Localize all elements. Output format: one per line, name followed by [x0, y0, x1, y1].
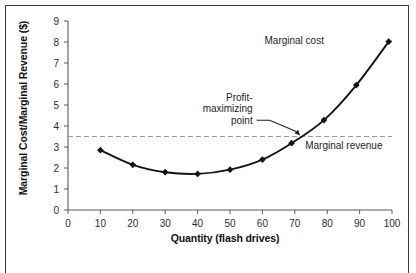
profit-point-label-line3: point: [231, 115, 253, 126]
marginal-revenue-label: Marginal revenue: [305, 140, 383, 151]
x-tick-label: 100: [384, 218, 401, 229]
x-tick-label: 80: [322, 218, 334, 229]
x-tick-label: 50: [224, 218, 236, 229]
x-tick-label: 30: [160, 218, 172, 229]
y-tick-label: 2: [53, 163, 59, 174]
profit-point-arrow: [257, 120, 297, 131]
x-tick-label: 20: [127, 218, 139, 229]
data-point-marker: [97, 147, 104, 154]
y-tick-label: 3: [53, 142, 59, 153]
x-axis-ticks: 0102030405060708090100: [65, 210, 401, 229]
y-tick-label: 6: [53, 79, 59, 90]
profit-point-label-line1: Profit-: [226, 92, 253, 103]
profit-point-label-line2: maximizing: [203, 103, 253, 114]
x-tick-label: 60: [257, 218, 269, 229]
x-tick-label: 0: [65, 218, 71, 229]
data-point-marker: [162, 169, 169, 176]
y-tick-label: 5: [53, 100, 59, 111]
y-tick-label: 7: [53, 58, 59, 69]
x-tick-label: 70: [289, 218, 301, 229]
data-point-marker: [259, 156, 266, 163]
y-tick-label: 4: [53, 121, 59, 132]
y-tick-label: 0: [53, 205, 59, 216]
y-tick-label: 8: [53, 37, 59, 48]
data-point-marker: [129, 161, 136, 168]
x-tick-label: 90: [354, 218, 366, 229]
x-tick-label: 40: [192, 218, 204, 229]
marginal-cost-label: Marginal cost: [264, 35, 324, 46]
y-tick-label: 9: [53, 16, 59, 27]
data-point-marker: [227, 166, 234, 173]
x-tick-label: 10: [95, 218, 107, 229]
y-axis-ticks: 0123456789: [53, 16, 68, 216]
y-tick-label: 1: [53, 184, 59, 195]
data-point-marker: [194, 170, 201, 177]
